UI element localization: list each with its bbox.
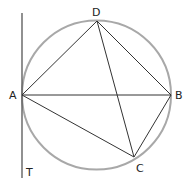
- label-D: D: [92, 6, 100, 19]
- label-A: A: [9, 89, 17, 102]
- segment-AC: [22, 95, 134, 157]
- segment-AD: [22, 21, 97, 95]
- segment-DB: [97, 21, 171, 95]
- geometry-diagram: A B C D T: [0, 0, 190, 185]
- label-T: T: [25, 166, 33, 179]
- label-C: C: [136, 162, 144, 175]
- label-B: B: [175, 89, 183, 102]
- segment-DC: [97, 21, 134, 157]
- segment-BC: [134, 95, 171, 157]
